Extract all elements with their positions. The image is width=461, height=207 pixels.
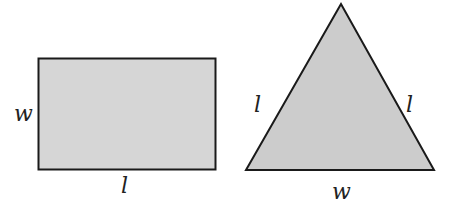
rectangle-length-label: l (121, 173, 128, 198)
diagram-canvas: w l l l w (0, 0, 461, 207)
rectangle-shape (39, 59, 216, 170)
triangle-left-side-label: l (254, 92, 261, 117)
shapes-diagram: w l l l w (0, 0, 461, 207)
triangle-base-label: w (332, 179, 351, 204)
rectangle-width-label: w (14, 101, 33, 126)
triangle-shape (246, 4, 434, 170)
triangle-right-side-label: l (406, 92, 413, 117)
